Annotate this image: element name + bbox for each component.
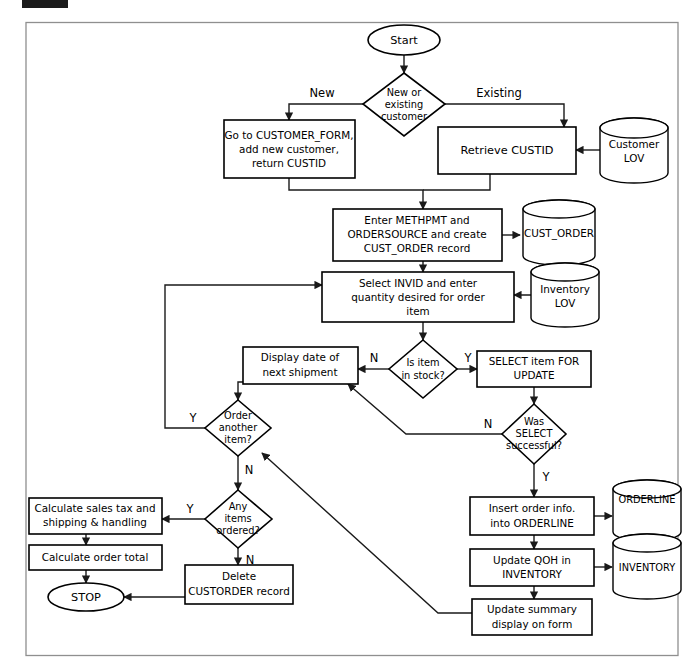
node-enter-methpmt-line2: ORDERSOURCE and create (347, 228, 486, 240)
datastore-cust-order-label: CUST_ORDER (524, 227, 594, 240)
edge-label-any-items-no: N (246, 553, 255, 567)
edge-label-select-ok-no: N (484, 417, 493, 431)
node-start-label: Start (390, 34, 418, 47)
node-retrieve-custid-label: Retrieve CUSTID (461, 144, 554, 157)
datastore-customer-lov-line2: LOV (624, 152, 645, 164)
node-any-items-ordered-line1: Any (229, 501, 248, 512)
node-retrieve-custid[interactable]: Retrieve CUSTID (438, 127, 576, 174)
node-select-item-for-update[interactable]: SELECT item FOR UPDATE (477, 351, 591, 387)
node-enter-methpmt-line1: Enter METHPMT and (364, 214, 469, 226)
edge-label-any-items-yes: Y (185, 502, 194, 516)
node-is-item-in-stock[interactable]: Is item in stock? (389, 340, 457, 398)
node-update-qoh-line2: INVENTORY (502, 568, 562, 580)
node-select-invid[interactable]: Select INVID and enter quantity desired … (322, 272, 514, 322)
node-order-another-item-line1: Order (224, 410, 253, 421)
node-new-or-existing-line2: existing (385, 99, 423, 110)
corner-marker (22, 0, 68, 8)
node-enter-methpmt[interactable]: Enter METHPMT and ORDERSOURCE and create… (333, 209, 502, 261)
node-order-another-item-line3: item? (224, 434, 251, 445)
datastore-orderline-label: ORDERLINE (619, 494, 676, 505)
node-new-or-existing-line1: New or (387, 87, 422, 98)
edge-label-in-stock-no: N (370, 351, 379, 365)
node-goto-customer-form-line3: return CUSTID (252, 157, 326, 169)
flowchart-canvas: Start New or existing customer Go to CUS… (0, 0, 700, 670)
datastore-cust-order[interactable]: CUST_ORDER (523, 200, 595, 265)
node-is-item-in-stock-line1: Is item (406, 357, 439, 368)
node-insert-order-info-line2: into ORDERLINE (490, 517, 574, 529)
edge-label-existing: Existing (476, 86, 522, 100)
node-order-another-item[interactable]: Order another item? (205, 400, 271, 456)
node-is-item-in-stock-line2: in stock? (401, 370, 444, 381)
node-update-qoh-line1: Update QOH in (493, 554, 571, 566)
datastore-inventory-lov[interactable]: Inventory LOV (531, 263, 599, 327)
datastore-inventory-label: INVENTORY (619, 562, 675, 573)
node-calculate-order-total[interactable]: Calculate order total (29, 545, 162, 570)
node-insert-order-info-line1: Insert order info. (489, 502, 576, 514)
node-new-or-existing-line3: customer (381, 111, 428, 122)
node-any-items-ordered[interactable]: Any items ordered? (205, 490, 272, 548)
node-display-date[interactable]: Display date of next shipment (243, 347, 358, 384)
node-was-select-successful-line3: successful? (506, 440, 562, 451)
node-calculate-sales-tax-line1: Calculate sales tax and (34, 502, 155, 514)
node-calculate-sales-tax[interactable]: Calculate sales tax and shipping & handl… (29, 498, 162, 534)
node-stop[interactable]: STOP (48, 583, 124, 611)
node-select-item-for-update-line1: SELECT item FOR (489, 355, 580, 367)
node-insert-order-info[interactable]: Insert order info. into ORDERLINE (470, 497, 594, 535)
node-select-invid-line1: Select INVID and enter (359, 277, 478, 289)
node-enter-methpmt-line3: CUST_ORDER record (364, 242, 471, 255)
node-was-select-successful-line1: Was (524, 416, 544, 427)
node-stop-label: STOP (71, 591, 101, 604)
edge-customerform-to-enter (289, 178, 423, 209)
node-select-item-for-update-line2: UPDATE (514, 369, 555, 381)
node-goto-customer-form-line2: add new customer, (239, 143, 339, 155)
node-update-summary-line2: display on form (492, 618, 573, 630)
node-new-or-existing-customer[interactable]: New or existing customer (363, 73, 445, 136)
node-delete-custorder-line1: Delete (222, 570, 256, 582)
node-start[interactable]: Start (368, 25, 440, 55)
node-any-items-ordered-line2: items (224, 513, 251, 524)
node-was-select-successful-line2: SELECT (516, 428, 554, 439)
node-update-summary[interactable]: Update summary display on form (472, 599, 592, 635)
node-update-summary-line1: Update summary (487, 603, 577, 615)
edge-label-order-another-no: N (245, 463, 254, 477)
node-order-another-item-line2: another (219, 422, 258, 433)
flowchart-page: Start New or existing customer Go to CUS… (0, 0, 700, 670)
edge-label-select-ok-yes: Y (541, 470, 550, 484)
node-select-invid-line3: item (406, 305, 429, 317)
edge-existing-branch (445, 104, 564, 127)
node-display-date-line2: next shipment (263, 366, 338, 378)
node-goto-customer-form[interactable]: Go to CUSTOMER_FORM, add new customer, r… (224, 120, 355, 178)
edge-new-branch (289, 104, 363, 120)
edge-label-new: New (309, 86, 334, 100)
edge-label-order-another-yes: Y (188, 411, 197, 425)
node-update-qoh[interactable]: Update QOH in INVENTORY (470, 549, 594, 586)
node-select-invid-line2: quantity desired for order (351, 291, 485, 303)
node-goto-customer-form-line1: Go to CUSTOMER_FORM, (224, 129, 353, 142)
node-display-date-line1: Display date of (261, 351, 340, 363)
edge-retrieve-to-enter (423, 174, 490, 190)
datastore-customer-lov-line1: Customer (609, 138, 660, 150)
datastore-inventory[interactable]: INVENTORY (613, 534, 681, 599)
node-calculate-sales-tax-line2: shipping & handling (43, 516, 147, 528)
node-calculate-order-total-label: Calculate order total (42, 551, 149, 563)
node-any-items-ordered-line3: ordered? (216, 525, 259, 536)
edge-label-in-stock-yes: Y (463, 351, 472, 365)
node-delete-custorder-line2: CUSTORDER record (188, 585, 289, 597)
datastore-inventory-lov-line1: Inventory (540, 283, 590, 295)
datastore-customer-lov[interactable]: Customer LOV (600, 118, 668, 183)
node-was-select-successful[interactable]: Was SELECT successful? (502, 404, 566, 464)
datastore-orderline[interactable]: ORDERLINE (613, 480, 681, 541)
datastore-inventory-lov-line2: LOV (555, 297, 576, 309)
node-delete-custorder[interactable]: Delete CUSTORDER record (185, 565, 293, 604)
